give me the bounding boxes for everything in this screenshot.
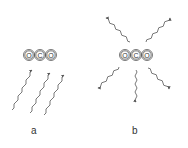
wavy-arrow-down-right [148, 68, 169, 89]
panel-label-a: a [31, 125, 37, 136]
diagram: O C O O C O [0, 0, 188, 148]
wavy-arrow-3 [44, 75, 64, 115]
atom-c-b: C [133, 52, 138, 59]
wavy-arrow-down-left [98, 67, 119, 88]
atom-o-left-a: O [26, 52, 32, 59]
atom-c-a: C [37, 52, 42, 59]
wavy-arrow-up-left [106, 18, 130, 42]
wavy-arrow-2 [30, 73, 50, 113]
wavy-arrow-1 [12, 70, 32, 110]
atom-o-left-b: O [122, 52, 128, 59]
wavy-arrow-up-right [146, 18, 170, 42]
atom-o-right-a: O [48, 52, 54, 59]
incoming-photon-arrows [12, 70, 64, 115]
atom-o-right-b: O [144, 52, 150, 59]
panel-label-b: b [132, 125, 138, 136]
wavy-arrow-down [135, 70, 137, 102]
